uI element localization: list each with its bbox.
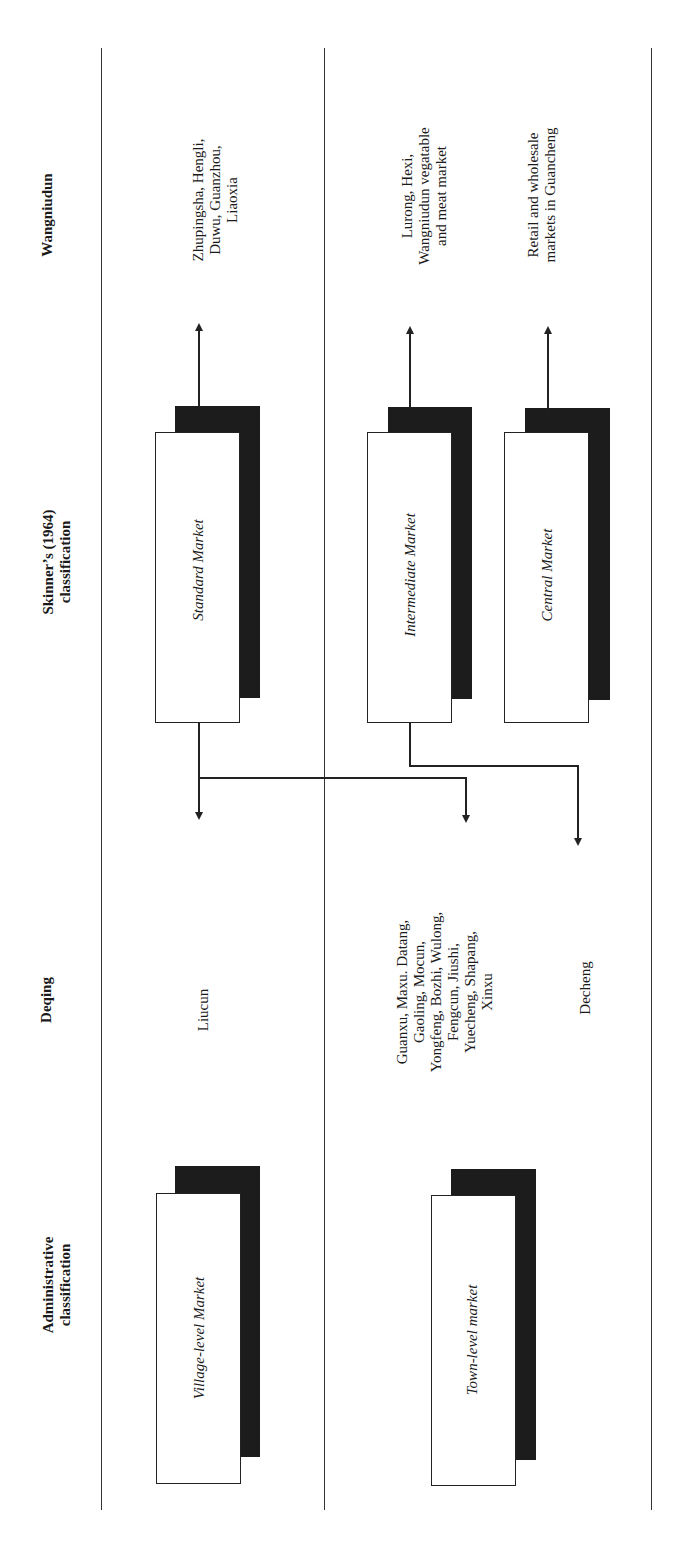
- standard-market-label: Standard Market: [190, 519, 207, 621]
- central-market-label: Central Market: [539, 529, 556, 622]
- deqing-town-markets-text: Guanxu, Maxu. Datang, Gaoling, Mocun, Yo…: [394, 912, 496, 1073]
- header-deqing: Deqing: [38, 977, 55, 1023]
- village-level-market-label: Village-level Market: [191, 1277, 208, 1400]
- deqing-village-market-text: Liucun: [195, 989, 212, 1032]
- wangniudun-standard-markets-text: Zhupingsha, Hengli, Duwu, Guanzhou, Liao…: [190, 139, 241, 262]
- arrowhead-down-icon: [195, 812, 203, 820]
- divider-bottom: [651, 48, 652, 1510]
- arrowhead-down-icon: [574, 838, 582, 846]
- connector-standard-horizontal: [198, 777, 466, 779]
- market-classification-diagram: Administrative classification Deqing Ski…: [0, 0, 678, 1563]
- arrowhead-down-icon: [462, 815, 470, 823]
- connector-standard-down: [198, 723, 200, 816]
- arrow-intermediate-to-wangniudun: [409, 333, 411, 408]
- header-wangniudun: Wangniudun: [39, 173, 56, 256]
- town-level-market-label: Town-level market: [464, 1285, 481, 1396]
- arrow-central-to-wangniudun: [547, 333, 549, 409]
- connector-intermediate-down: [409, 723, 411, 766]
- wangniudun-intermediate-markets-text: Lurong, Hexi, Wangniudun vegatable and m…: [399, 127, 450, 265]
- arrowhead-up-icon: [544, 326, 552, 334]
- arrowhead-up-icon: [406, 326, 414, 334]
- connector-intermediate-horizontal: [409, 765, 578, 767]
- arrowhead-up-icon: [195, 323, 203, 331]
- connector-intermediate-to-decheng: [577, 765, 579, 841]
- deqing-central-market-text: Decheng: [577, 961, 594, 1014]
- connector-standard-to-town: [465, 777, 467, 819]
- intermediate-market-label: Intermediate Market: [402, 513, 419, 637]
- wangniudun-central-markets-text: Retail and wholesale markets in Guanchen…: [525, 128, 559, 263]
- header-skinner: Skinner’s (1964) classification: [40, 509, 74, 614]
- divider-village-town: [324, 48, 325, 1510]
- divider-header: [101, 48, 102, 1510]
- header-administrative: Administrative classification: [40, 1237, 74, 1334]
- arrow-standard-to-wangniudun: [198, 330, 200, 407]
